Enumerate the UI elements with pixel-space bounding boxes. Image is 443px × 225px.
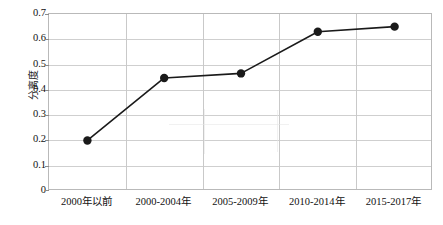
- data-point: [314, 28, 322, 36]
- y-tick-label: 0.7: [20, 7, 46, 19]
- data-point: [83, 136, 91, 144]
- x-tick-label: 2010-2014年: [278, 194, 355, 212]
- x-tick-label: 2015-2017年: [355, 194, 432, 212]
- data-point: [237, 69, 245, 77]
- y-axis-tick-labels: 0.7 0.6 0.5 0.4 0.3 0.2 0.1 0: [18, 0, 46, 225]
- x-tick-label: 2005-2009年: [202, 194, 279, 212]
- line-chart: 分离度 0.7 0.6 0.5 0.4 0.3 0.2 0.1 0: [0, 0, 443, 225]
- y-tick-label: 0.5: [20, 58, 46, 70]
- x-tick-label: 2000年以前: [48, 194, 125, 212]
- y-tick-label: 0.6: [20, 32, 46, 44]
- y-tick-label: 0.4: [20, 83, 46, 95]
- y-tick-label: 0: [20, 184, 46, 196]
- x-axis-tick-labels: 2000年以前 2000-2004年 2005-2009年 2010-2014年…: [48, 194, 432, 212]
- plot-area: [48, 13, 432, 190]
- y-tick-label: 0.3: [20, 108, 46, 120]
- y-tick-label: 0.1: [20, 159, 46, 171]
- data-point: [390, 22, 398, 30]
- x-tick-label: 2000-2004年: [125, 194, 202, 212]
- series-separation-degree: [49, 14, 433, 191]
- data-point: [160, 74, 168, 82]
- series-line: [87, 27, 394, 141]
- y-tick-label: 0.2: [20, 133, 46, 145]
- series-markers: [83, 22, 399, 144]
